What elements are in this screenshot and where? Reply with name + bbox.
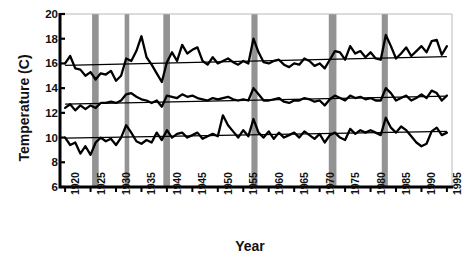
x-axis-tick-label: 1985 <box>400 172 412 195</box>
x-axis-tick-label: 1990 <box>425 172 437 195</box>
x-axis-tick-label: 1975 <box>349 172 361 195</box>
x-axis-tick-label: 1960 <box>273 172 285 195</box>
x-axis-tick-labels: 1920192519301935194019451950195519601965… <box>0 0 468 262</box>
x-axis-tick-label: 1935 <box>145 172 157 195</box>
chart-container: Temperature (C) 68101214161820 192019251… <box>0 0 468 262</box>
x-axis-tick-label: 1920 <box>69 172 81 195</box>
x-axis-tick-label: 1945 <box>196 172 208 195</box>
x-axis-tick-label: 1995 <box>451 172 463 195</box>
x-axis-tick-label: 1970 <box>324 172 336 195</box>
x-axis-tick-label: 1965 <box>298 172 310 195</box>
x-axis-tick-label: 1940 <box>171 172 183 195</box>
x-axis-tick-label: 1950 <box>222 172 234 195</box>
x-axis-title-text: Year <box>235 238 265 254</box>
x-axis-tick-label: 1955 <box>247 172 259 195</box>
x-axis-title: Year <box>0 238 468 254</box>
x-axis-tick-label: 1980 <box>375 172 387 195</box>
x-axis-tick-label: 1925 <box>95 172 107 195</box>
x-axis-tick-label: 1930 <box>120 172 132 195</box>
